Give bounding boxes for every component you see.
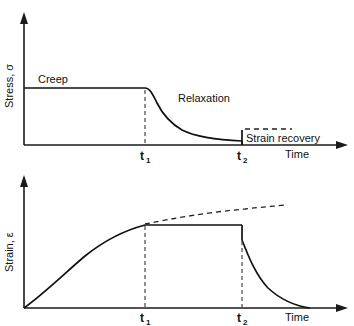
stress-tick-label-t2: t 2 xyxy=(237,149,248,165)
strain-recovery-label: Strain recovery xyxy=(246,132,320,144)
strain-tick-label-t1: t 1 xyxy=(140,311,151,326)
strain-y-axis xyxy=(20,175,28,308)
strain-tick-label-t2: t 2 xyxy=(237,311,248,326)
svg-text:t: t xyxy=(140,149,144,163)
creep-label: Creep xyxy=(38,73,68,85)
stress-x-axis-label: Time xyxy=(285,148,309,160)
strain-creep-extrapolation xyxy=(145,205,286,224)
svg-text:2: 2 xyxy=(243,156,248,165)
x-axis-arrowhead xyxy=(336,141,348,149)
chart-strain-time: Strain, ε Time t 1 t 2 xyxy=(3,175,348,326)
stress-tick-label-t1: t 1 xyxy=(140,149,151,165)
strain-curve xyxy=(24,225,242,308)
x-axis-arrowhead xyxy=(336,304,348,312)
stress-y-axis xyxy=(20,12,28,145)
svg-text:t: t xyxy=(140,311,144,325)
strain-y-axis-label: Strain, ε xyxy=(3,232,15,272)
strain-recovery-curve xyxy=(242,240,310,308)
figure-container: Stress, σ Time Creep Relaxation Strain r… xyxy=(0,0,354,326)
y-axis-arrowhead xyxy=(20,175,28,187)
y-axis-arrowhead xyxy=(20,12,28,24)
chart-stress-time: Stress, σ Time Creep Relaxation Strain r… xyxy=(3,12,348,165)
svg-text:1: 1 xyxy=(146,156,151,165)
diagram-canvas: Stress, σ Time Creep Relaxation Strain r… xyxy=(0,0,354,326)
svg-text:2: 2 xyxy=(243,318,248,326)
svg-text:t: t xyxy=(237,311,241,325)
stress-y-axis-label: Stress, σ xyxy=(3,64,15,108)
svg-text:1: 1 xyxy=(146,318,151,326)
strain-x-axis-label: Time xyxy=(285,311,309,323)
relaxation-label: Relaxation xyxy=(178,92,230,104)
svg-text:t: t xyxy=(237,149,241,163)
